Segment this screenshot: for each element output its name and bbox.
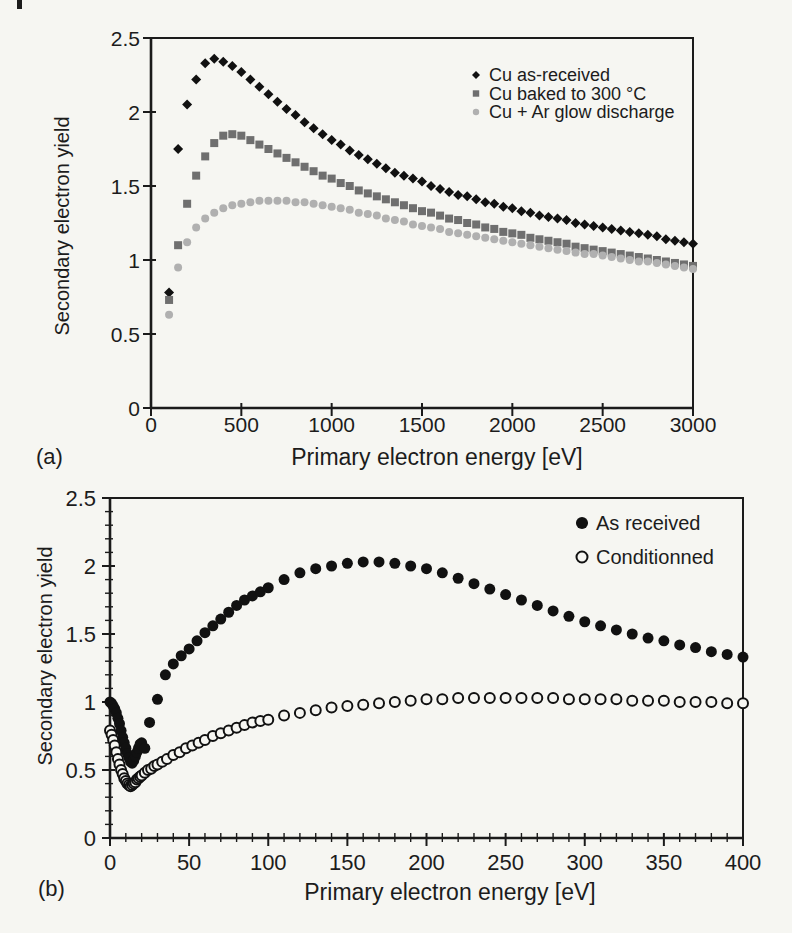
legend: Cu as-receivedCu baked to 300 °CCu + Ar … bbox=[472, 65, 675, 122]
x-tick-label: 0 bbox=[145, 413, 157, 436]
legend-label: As received bbox=[596, 512, 701, 534]
x-tick-label: 2000 bbox=[489, 413, 536, 436]
x-tick-label: 100 bbox=[250, 850, 287, 875]
x-tick-label: 50 bbox=[177, 850, 201, 875]
y-tick-label: 2 bbox=[128, 101, 140, 124]
y-tick-label: 0.5 bbox=[111, 323, 140, 346]
panel-b-label: (b) bbox=[38, 876, 65, 902]
y-tick-label: 2.5 bbox=[65, 486, 96, 511]
legend-item-cu-ar-glow-discharge: Cu + Ar glow discharge bbox=[473, 102, 675, 122]
y-tick-label: 0.5 bbox=[65, 758, 96, 783]
chart-a: 05001000150020002500300000.511.522.5Prim… bbox=[51, 27, 716, 470]
legend: As receivedConditionned bbox=[576, 512, 714, 568]
legend-item-conditionned: Conditionned bbox=[577, 546, 714, 568]
legend-item-cu-as-received: Cu as-received bbox=[472, 65, 610, 85]
legend-label: Cu baked to 300 °C bbox=[489, 84, 646, 104]
x-tick-label: 250 bbox=[487, 850, 524, 875]
x-axis-title: Primary electron energy [eV] bbox=[304, 879, 595, 905]
x-tick-label: 1000 bbox=[308, 413, 355, 436]
y-axis-title: Secondary electron yield bbox=[34, 546, 56, 765]
series-cu-baked-to-300-c bbox=[165, 130, 697, 304]
legend-label: Cu + Ar glow discharge bbox=[489, 102, 675, 122]
legend-marker-circle-open bbox=[577, 552, 588, 563]
legend-label: Cu as-received bbox=[489, 65, 610, 85]
legend-marker-dot bbox=[576, 517, 588, 529]
y-tick-label: 1 bbox=[84, 690, 96, 715]
x-tick-label: 0 bbox=[104, 850, 116, 875]
figure-canvas: 05001000150020002500300000.511.522.5Prim… bbox=[0, 0, 792, 933]
legend-marker-diamond bbox=[472, 71, 480, 79]
y-tick-label: 1.5 bbox=[65, 622, 96, 647]
legend-item-as-received: As received bbox=[576, 512, 701, 534]
y-tick-label: 1.5 bbox=[111, 175, 140, 198]
y-tick-label: 1 bbox=[128, 249, 140, 272]
x-axis-title: Primary electron energy [eV] bbox=[291, 444, 582, 470]
x-tick-label: 2500 bbox=[579, 413, 626, 436]
x-tick-label: 1500 bbox=[399, 413, 446, 436]
x-tick-label: 200 bbox=[408, 850, 445, 875]
legend-marker-circle bbox=[473, 109, 479, 115]
legend-item-cu-baked-to-300-c: Cu baked to 300 °C bbox=[473, 84, 647, 104]
x-tick-label: 500 bbox=[224, 413, 259, 436]
y-tick-label: 0 bbox=[128, 397, 140, 420]
x-tick-label: 3000 bbox=[670, 413, 717, 436]
x-tick-label: 400 bbox=[725, 850, 762, 875]
panel-a-label: (a) bbox=[36, 444, 63, 470]
x-tick-label: 300 bbox=[566, 850, 603, 875]
x-tick-label: 350 bbox=[646, 850, 683, 875]
x-tick-label: 150 bbox=[329, 850, 366, 875]
y-tick-label: 2.5 bbox=[111, 27, 140, 50]
legend-marker-square bbox=[473, 90, 479, 96]
page: 05001000150020002500300000.511.522.5Prim… bbox=[0, 0, 792, 933]
y-axis-title: Secondary electron yield bbox=[51, 116, 73, 335]
series-conditionned bbox=[105, 693, 748, 791]
axis-tick-labels: 05010015020025030035040000.511.522.5 bbox=[65, 486, 761, 875]
y-tick-label: 0 bbox=[84, 826, 96, 851]
chart-b: 05010015020025030035040000.511.522.5Prim… bbox=[34, 486, 761, 905]
y-tick-label: 2 bbox=[84, 554, 96, 579]
legend-label: Conditionned bbox=[596, 546, 714, 568]
